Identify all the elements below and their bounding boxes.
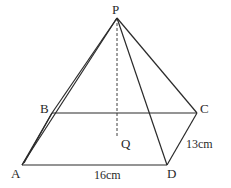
label-B: B: [40, 101, 49, 116]
label-A: A: [11, 166, 21, 181]
edge-PB-ext: [24, 113, 52, 163]
dimension-AD: 16cm: [94, 168, 121, 182]
dimension-DC: 13cm: [186, 137, 213, 151]
label-Q: Q: [121, 136, 131, 151]
edge-PA: [22, 18, 117, 165]
label-D: D: [167, 166, 176, 181]
label-P: P: [112, 2, 119, 17]
edge-PB: [52, 18, 117, 113]
pyramid-diagram: P B C Q A D 16cm 13cm: [0, 0, 231, 188]
pyramid-svg: P B C Q A D 16cm 13cm: [0, 0, 231, 188]
edge-PC: [117, 18, 197, 113]
label-C: C: [200, 101, 209, 116]
